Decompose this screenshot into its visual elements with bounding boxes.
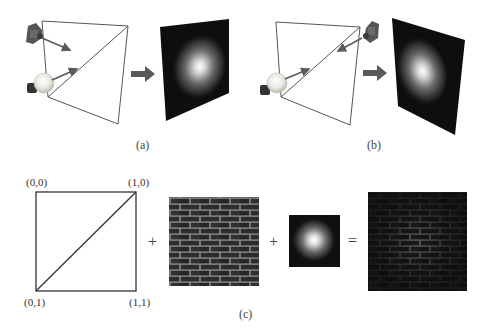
coord-bottom-right: (1,1) — [129, 296, 150, 308]
caption-c: (c) — [239, 307, 252, 322]
caption-a: (a) — [136, 138, 149, 153]
camera-icon — [26, 23, 43, 44]
figure-canvas — [0, 0, 489, 336]
camera-ray-a — [42, 38, 70, 50]
camera-icon — [363, 21, 379, 43]
panel-a — [26, 19, 233, 124]
quad-diagonal-b — [281, 27, 360, 97]
brick-texture — [169, 197, 259, 286]
plus-operator-2: + — [269, 233, 278, 251]
coord-top-left: (0,0) — [26, 176, 47, 188]
panel-c — [36, 192, 467, 291]
result-arrow-a — [131, 66, 155, 82]
spotlight-map — [289, 215, 340, 267]
light-bulb-icon — [260, 73, 287, 95]
coord-top-right: (1,0) — [128, 176, 149, 188]
equals-operator: = — [348, 232, 357, 250]
light-ray-b — [285, 69, 309, 79]
projection-quad-a — [42, 21, 128, 124]
projection-quad-b — [276, 22, 360, 125]
lit-brick-result — [368, 192, 467, 291]
quad-diagonal-a — [48, 26, 128, 97]
coord-bottom-left: (0,1) — [24, 296, 45, 308]
plus-operator-1: + — [148, 233, 157, 251]
result-arrow-b — [363, 65, 387, 81]
light-bulb-icon — [27, 73, 54, 93]
panel-b — [260, 18, 465, 135]
caption-b: (b) — [367, 138, 381, 153]
